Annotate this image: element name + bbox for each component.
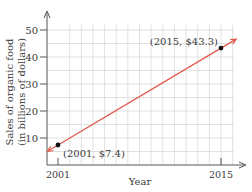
y-tick-label: 40	[25, 52, 38, 63]
x-tick-label: 2001	[46, 169, 70, 180]
y-tick-label: 10	[25, 133, 38, 144]
data-point	[56, 143, 61, 148]
axes	[44, 11, 246, 168]
x-tick-label: 2015	[209, 169, 233, 180]
y-tick-label: 30	[25, 79, 38, 90]
line-chart: 1020304050 20012015 (2001, $7.4)(2015, $…	[0, 0, 252, 192]
y-axis-label-line2: (in billions of dollars)	[16, 38, 27, 146]
trend-line	[48, 39, 237, 151]
data-point-label: (2001, $7.4)	[63, 148, 125, 159]
y-axis-label-line1: Sales of organic food	[4, 38, 15, 145]
y-tick-label: 50	[25, 25, 38, 36]
data-point-label: (2015, $43.3)	[150, 36, 218, 47]
data-point	[219, 46, 224, 51]
x-axis-label: Year	[128, 176, 152, 187]
y-ticks: 1020304050	[25, 25, 47, 144]
y-tick-label: 20	[25, 106, 38, 117]
